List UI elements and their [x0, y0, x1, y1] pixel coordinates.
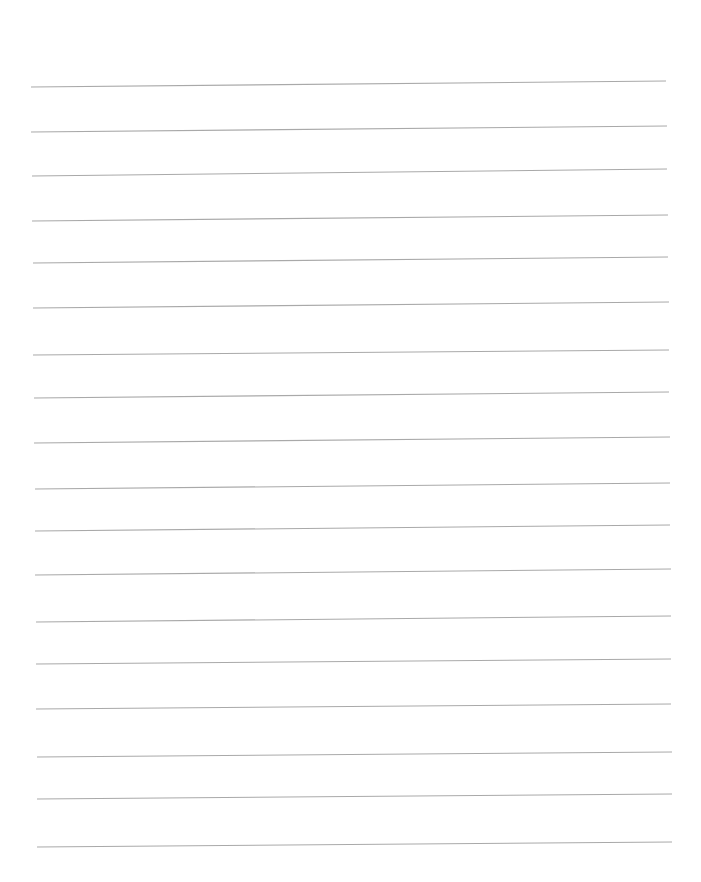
ruled-line	[37, 752, 672, 757]
ruled-line	[35, 483, 670, 489]
ruled-line	[33, 350, 669, 355]
ruled-line	[35, 525, 670, 531]
ruled-line	[31, 126, 667, 132]
ruled-line	[35, 569, 671, 575]
ruled-line	[36, 616, 671, 622]
ruled-line	[34, 392, 669, 398]
ruled-line	[32, 169, 667, 176]
ruled-line	[37, 794, 672, 799]
ruled-line	[36, 659, 671, 664]
ruled-line	[36, 704, 671, 709]
ruled-line	[33, 257, 668, 263]
ruled-line	[37, 842, 672, 847]
ruled-line	[34, 437, 670, 443]
ruled-line	[31, 81, 666, 87]
ruled-line	[32, 215, 668, 221]
lined-paper-page	[0, 0, 701, 882]
ruled-line	[33, 302, 669, 308]
ruled-lines	[0, 0, 701, 882]
